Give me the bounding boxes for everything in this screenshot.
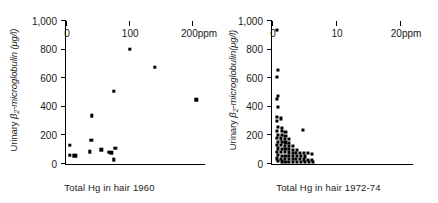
x-tick-label-left-100: 100	[122, 27, 139, 40]
data-point-1960-13	[128, 47, 131, 50]
data-point-1960-4	[88, 150, 91, 153]
figure-scatter-pair: Urinary β2-microglobulin (μg/l) 0 200 40…	[0, 0, 438, 203]
data-point-1960-5	[90, 138, 93, 141]
data-point-1960-9	[110, 151, 113, 154]
plot-area-right: 0 200 400 600 800 1,000 0 10 20ppm	[271, 21, 413, 165]
data-point-1972-74-12	[276, 129, 279, 132]
data-point-1972-74-7	[279, 117, 282, 120]
data-point-1960-10	[112, 158, 115, 161]
data-point-1972-74-11	[301, 128, 304, 131]
data-point-1972-74-73	[308, 161, 311, 164]
y-tick-right-200: 200	[267, 134, 272, 135]
beta-symbol-right: β	[227, 112, 238, 117]
data-point-1972-74-70	[295, 160, 298, 163]
y-tick-label-left-1000: 1,000	[32, 15, 57, 28]
data-point-1972-74-38	[279, 150, 282, 153]
data-point-1972-74-14	[284, 130, 287, 133]
data-point-1972-74-13	[280, 130, 283, 133]
data-point-1972-74-72	[303, 160, 306, 163]
y-tick-label-left-600: 600	[40, 72, 57, 85]
x-tick-label-left-0: 0	[64, 27, 70, 40]
data-point-1972-74-4	[276, 97, 279, 100]
y-tick-left-200: 200	[61, 134, 66, 135]
x-tick-right-10: 10	[336, 21, 337, 26]
data-point-1972-74-67	[284, 160, 287, 163]
data-point-1960-11	[114, 146, 117, 149]
y-axis-title-left: Urinary β2-microglobulin (μg/l)	[8, 10, 22, 170]
data-point-1960-12	[112, 90, 115, 93]
x-tick-right-20: 20ppm	[400, 21, 401, 26]
y-axis-title-right: Urinary β2-microglobulin(μg/l)	[227, 10, 241, 170]
data-point-1972-74-8	[276, 120, 279, 123]
data-point-1972-74-2	[276, 75, 279, 78]
data-point-1972-74-19	[279, 137, 282, 140]
data-point-1972-74-0	[276, 29, 279, 32]
data-point-1972-74-1	[276, 69, 279, 72]
data-point-1972-74-71	[299, 160, 302, 163]
y-tick-right-600: 600	[267, 77, 272, 78]
beta-subscript-right: 2	[232, 109, 239, 113]
data-point-1972-74-6	[276, 115, 279, 118]
data-point-1972-74-9	[276, 126, 279, 129]
data-point-1972-74-74	[311, 161, 314, 164]
x-tick-left-200: 200ppm	[192, 21, 193, 26]
y-tick-label-left-200: 200	[40, 129, 57, 142]
y-tick-label-right-1000: 1,000	[238, 15, 263, 28]
y-tick-label-right-0: 0	[257, 158, 263, 171]
y-axis-title-left-prefix: Urinary	[8, 119, 19, 151]
beta-symbol-left: β	[8, 114, 19, 119]
y-tick-left-400: 400	[61, 106, 66, 107]
data-point-1972-74-69	[292, 160, 295, 163]
y-tick-right-400: 400	[267, 106, 272, 107]
y-tick-label-left-800: 800	[40, 43, 57, 56]
data-point-1960-14	[153, 65, 156, 68]
y-tick-label-right-400: 400	[246, 100, 263, 113]
data-point-1960-6	[90, 114, 93, 117]
y-tick-right-800: 800	[267, 49, 272, 50]
panel-hair-1972-74: Urinary β2-microglobulin(μg/l) 0 200 400…	[219, 0, 438, 203]
y-tick-label-left-0: 0	[51, 158, 57, 171]
x-tick-label-right-10: 10	[332, 27, 343, 40]
data-point-1972-74-18	[276, 136, 279, 139]
x-tick-left-100: 100	[129, 21, 130, 26]
beta-subscript-left: 2	[13, 110, 20, 114]
y-tick-label-right-200: 200	[246, 129, 263, 142]
data-point-1960-0	[68, 144, 71, 147]
y-tick-left-600: 600	[61, 77, 66, 78]
y-axis-title-right-prefix: Urinary	[227, 118, 238, 150]
data-point-1972-74-65	[276, 160, 279, 163]
plot-area-left: 0 200 400 600 800 1,000 0 100 200ppm	[65, 21, 205, 165]
x-tick-left-0: 0	[66, 21, 67, 26]
y-tick-label-right-800: 800	[246, 43, 263, 56]
x-tick-label-left-200: 200ppm	[181, 27, 217, 40]
x-tick-right-0: 0	[272, 21, 273, 26]
data-point-1972-74-45	[306, 152, 309, 155]
data-point-1972-74-46	[310, 152, 313, 155]
x-axis-title-left: Total Hg in hair 1960	[0, 182, 219, 193]
y-tick-right-0: 0	[267, 163, 272, 164]
panel-hair-1960: Urinary β2-microglobulin (μg/l) 0 200 40…	[0, 0, 219, 203]
x-axis-title-right: Total Hg in hair 1972-74	[219, 182, 438, 193]
y-tick-label-right-600: 600	[246, 72, 263, 85]
y-tick-label-left-400: 400	[40, 100, 57, 113]
y-axis-title-right-suffix: -microglobulin(μg/l)	[227, 30, 238, 109]
data-point-1972-74-5	[276, 105, 279, 108]
data-point-1960-3	[74, 154, 77, 157]
y-tick-left-800: 800	[61, 49, 66, 50]
x-tick-label-right-20: 20ppm	[391, 27, 422, 40]
y-tick-left-0: 0	[61, 163, 66, 164]
data-point-1972-74-68	[288, 160, 291, 163]
data-point-1972-74-66	[280, 160, 283, 163]
y-axis-title-left-suffix: -microglobulin (μg/l)	[8, 29, 19, 110]
data-point-1960-15	[194, 98, 197, 101]
data-point-1960-7	[100, 148, 103, 151]
